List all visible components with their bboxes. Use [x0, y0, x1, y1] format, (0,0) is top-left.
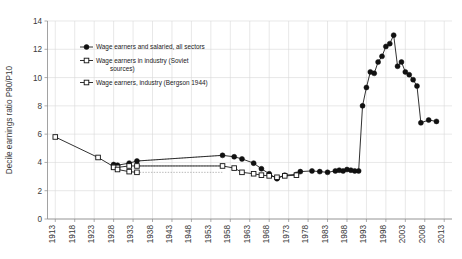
- x-tick-label: 1943: [165, 225, 174, 244]
- data-point-0-16: [325, 170, 330, 175]
- data-point-0-29: [379, 54, 384, 59]
- y-tick-label: 0: [37, 215, 42, 224]
- y-tick-label: 8: [37, 102, 42, 111]
- x-tick-label: 1983: [321, 225, 330, 244]
- data-point-2-3: [135, 170, 140, 175]
- y-axis-title: Decile earnings ratio P90/P10: [5, 65, 14, 174]
- y-tick-label: 10: [33, 74, 43, 83]
- x-tick-label: 1933: [126, 225, 135, 244]
- data-point-0-37: [411, 77, 416, 82]
- x-tick-label: 2013: [437, 225, 446, 244]
- data-point-0-34: [399, 60, 404, 65]
- data-point-0-8: [259, 166, 264, 171]
- legend-marker-2: [84, 80, 89, 85]
- data-point-1-12: [275, 175, 280, 180]
- data-point-1-1: [96, 155, 101, 160]
- data-point-0-25: [364, 85, 369, 90]
- x-tick-label: 1978: [301, 225, 310, 244]
- data-point-0-7: [251, 161, 256, 166]
- data-point-1-7: [232, 166, 237, 171]
- data-point-0-15: [317, 169, 322, 174]
- data-point-2-2: [127, 169, 132, 174]
- legend-marker-1: [84, 58, 89, 63]
- data-point-1-6: [220, 164, 225, 169]
- x-tick-label: 1918: [68, 225, 77, 244]
- data-point-1-13: [282, 174, 287, 179]
- data-point-0-23: [356, 168, 361, 173]
- x-tick-label: 1988: [340, 225, 349, 244]
- x-tick-label: 1923: [87, 225, 96, 244]
- data-point-0-41: [434, 119, 439, 124]
- chart-svg: 0246810121419131918192319281933193819431…: [0, 0, 462, 259]
- data-point-0-5: [232, 154, 237, 159]
- y-tick-label: 14: [33, 17, 43, 26]
- chart-container: 0246810121419131918192319281933193819431…: [0, 0, 462, 259]
- legend-label-1-cont: sources): [110, 65, 135, 73]
- data-point-0-4: [220, 153, 225, 158]
- data-point-0-40: [426, 118, 431, 123]
- x-tick-label: 1958: [223, 225, 232, 244]
- x-tick-label: 1948: [184, 225, 193, 244]
- x-tick-label: 1938: [146, 225, 155, 244]
- x-tick-label: 1913: [48, 225, 57, 244]
- y-tick-label: 12: [33, 45, 43, 54]
- data-point-1-5: [135, 164, 140, 169]
- data-point-1-11: [267, 174, 272, 179]
- y-tick-label: 4: [37, 158, 42, 167]
- data-point-1-10: [259, 173, 264, 178]
- x-tick-label: 1953: [204, 225, 213, 244]
- x-tick-label: 2003: [398, 225, 407, 244]
- x-tick-label: 1963: [243, 225, 252, 244]
- data-point-0-33: [395, 64, 400, 69]
- legend-label-2: Wage earners, industry (Bergson 1944): [96, 79, 208, 87]
- data-point-0-39: [418, 120, 423, 125]
- x-tick-label: 1993: [359, 225, 368, 244]
- data-point-0-31: [387, 41, 392, 46]
- legend-label-0: Wage earners and salaried, all sectors: [96, 43, 205, 51]
- data-point-1-0: [53, 135, 58, 140]
- data-point-1-8: [240, 170, 245, 175]
- legend-label-1: Wage earners in industry (Soviet: [96, 57, 189, 65]
- x-tick-label: 1973: [282, 225, 291, 244]
- data-point-0-3: [134, 159, 139, 164]
- data-point-1-14: [294, 173, 299, 178]
- data-point-0-32: [391, 33, 396, 38]
- data-point-0-28: [376, 60, 381, 65]
- legend-marker-0: [84, 45, 89, 50]
- x-tick-label: 2008: [418, 225, 427, 244]
- data-point-0-38: [414, 84, 419, 89]
- y-tick-label: 6: [37, 130, 42, 139]
- data-point-2-1: [115, 167, 120, 172]
- x-tick-label: 1928: [107, 225, 116, 244]
- data-point-1-4: [127, 164, 132, 169]
- x-tick-label: 1968: [262, 225, 271, 244]
- data-point-0-6: [239, 156, 244, 161]
- y-tick-label: 2: [37, 187, 42, 196]
- x-tick-label: 1998: [379, 225, 388, 244]
- data-point-0-27: [372, 71, 377, 76]
- data-point-0-14: [309, 168, 314, 173]
- data-point-1-9: [251, 171, 256, 176]
- data-point-0-36: [407, 72, 412, 77]
- data-point-0-24: [360, 103, 365, 108]
